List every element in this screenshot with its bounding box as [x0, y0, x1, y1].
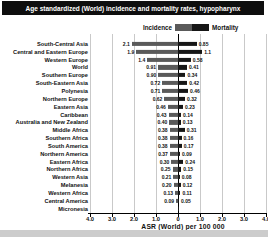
mortality-bar: [178, 199, 179, 203]
mortality-value: 0.58: [193, 56, 203, 64]
region-label: South-Central Asia: [0, 40, 88, 48]
region-label: Northern Europe: [0, 95, 88, 103]
bar-rows: South-Central Asia2.10.85Central and Eas…: [0, 40, 268, 213]
mortality-bar: [178, 128, 185, 132]
plot-area: 4.03.02.01.001.02.03.04.0 South-Central …: [0, 0, 268, 237]
tick-label: 4.0: [258, 216, 268, 222]
incidence-value: 0.21: [162, 173, 172, 181]
chart-row: South America0.380.17: [0, 142, 268, 150]
incidence-value: 1.4: [138, 56, 145, 64]
region-label: Northern America: [0, 150, 88, 158]
chart-row: Eastern Africa0.300.24: [0, 158, 268, 166]
incidence-value: 0.25: [161, 166, 171, 174]
incidence-value: 0.38: [158, 126, 168, 134]
mortality-bar: [178, 159, 183, 163]
region-label: Western Asia: [0, 173, 88, 181]
mortality-value: 0.17: [184, 142, 194, 150]
incidence-value: 0.43: [157, 111, 167, 119]
region-label: Micronesia: [0, 205, 88, 213]
chart-row: Western Africa0.130.11: [0, 189, 268, 197]
chart-row: Middle Africa0.380.31: [0, 126, 268, 134]
tick-label: 4.0: [82, 216, 98, 222]
incidence-bar: [158, 73, 178, 77]
tick-label: 1.0: [148, 216, 164, 222]
region-label: South-Eastern Asia: [0, 79, 88, 87]
region-label: Eastern Asia: [0, 103, 88, 111]
chart-row: South-Eastern Asia0.720.42: [0, 79, 268, 87]
mortality-value: 0.41: [189, 64, 199, 72]
mortality-value: 0.34: [187, 71, 197, 79]
tick-label: 1.0: [192, 216, 208, 222]
tick-label: 3.0: [104, 216, 120, 222]
region-label: Southern Europe: [0, 71, 88, 79]
region-label: Central and Eastern Europe: [0, 48, 88, 56]
chart-row: Northern America0.370.09: [0, 150, 268, 158]
mortality-bar: [178, 183, 181, 187]
mortality-bar: [178, 175, 180, 179]
incidence-value: 0.40: [157, 118, 167, 126]
incidence-value: 0.09: [164, 197, 174, 205]
region-label: Eastern Africa: [0, 158, 88, 166]
mortality-bar: [178, 89, 188, 93]
chart-row: Caribbean0.430.14: [0, 111, 268, 119]
chart-row: Micronesia: [0, 205, 268, 213]
mortality-bar: [178, 73, 185, 77]
incidence-bar: [168, 105, 178, 109]
x-axis-title: ASR (World) per 100 000: [93, 223, 268, 230]
region-label: Australia and New Zealand: [0, 118, 88, 126]
region-label: Polynesia: [0, 87, 88, 95]
mortality-bar: [178, 65, 187, 69]
tick-label: 0: [170, 216, 186, 222]
chart-row: Southern Africa0.380.16: [0, 134, 268, 142]
mortality-bar: [178, 136, 182, 140]
mortality-bar: [178, 97, 185, 101]
region-label: South America: [0, 142, 88, 150]
incidence-bar: [136, 50, 178, 54]
mortality-bar: [178, 81, 187, 85]
region-label: Northern Africa: [0, 166, 88, 174]
tick-label: 2.0: [214, 216, 230, 222]
incidence-value: 0.90: [146, 71, 156, 79]
incidence-bar: [162, 81, 178, 85]
mortality-bar: [178, 58, 191, 62]
mortality-bar: [178, 120, 181, 124]
mortality-value: 0.14: [183, 111, 193, 119]
region-label: Western Europe: [0, 56, 88, 64]
incidence-value: 0.37: [158, 150, 168, 158]
region-label: Western Africa: [0, 189, 88, 197]
mortality-bar: [178, 152, 180, 156]
tick-label: 3.0: [236, 216, 252, 222]
chart-row: Southern Europe0.900.34: [0, 71, 268, 79]
mortality-bar: [178, 50, 202, 54]
incidence-bar: [158, 65, 178, 69]
mortality-value: 0.32: [187, 95, 197, 103]
region-label: Middle Africa: [0, 126, 88, 134]
chart-row: Central America0.090.05: [0, 197, 268, 205]
incidence-value: 0.13: [163, 189, 173, 197]
chart-row: Central and Eastern Europe1.91.1: [0, 48, 268, 56]
incidence-value: 0.62: [153, 95, 163, 103]
region-label: Caribbean: [0, 111, 88, 119]
mortality-value: 0.24: [185, 158, 195, 166]
incidence-value: 0.38: [158, 134, 168, 142]
incidence-value: 0.91: [146, 64, 156, 72]
mortality-value: 0.13: [183, 118, 193, 126]
tick-label: 2.0: [126, 216, 142, 222]
chart-row: World0.910.41: [0, 64, 268, 72]
chart-row: Eastern Asia0.460.23: [0, 103, 268, 111]
mortality-value: 0.23: [185, 103, 195, 111]
chart-row: Polynesia0.710.46: [0, 87, 268, 95]
incidence-bar: [170, 144, 178, 148]
mortality-value: 0.05: [181, 197, 191, 205]
mortality-value: 0.15: [183, 166, 193, 174]
incidence-value: 1.9: [127, 48, 134, 56]
incidence-bar: [170, 152, 178, 156]
incidence-value: 0.38: [158, 142, 168, 150]
incidence-bar: [170, 128, 178, 132]
mortality-value: 0.16: [184, 134, 194, 142]
incidence-bar: [132, 42, 178, 46]
bottom-gray-strip: [0, 230, 268, 237]
mortality-value: 0.85: [199, 40, 209, 48]
region-label: Central America: [0, 197, 88, 205]
mortality-value: 0.08: [182, 173, 192, 181]
